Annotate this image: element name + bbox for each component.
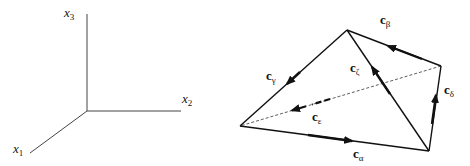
edge-label-delta: cδ	[444, 82, 454, 99]
edge-label-gamma: cγ	[266, 68, 276, 85]
diagram-canvas: x3 x2 x1 cβ cγ	[0, 0, 470, 166]
coordinate-axes: x3 x2 x1	[12, 5, 192, 158]
edge-label-epsilon: cε	[312, 109, 322, 126]
axis-x1	[30, 111, 87, 153]
edge-beta-arrow	[388, 46, 422, 59]
edge-gamma-arrow	[287, 72, 300, 84]
edge-zeta-arrow	[372, 67, 390, 94]
axis-label-x2: x2	[181, 91, 192, 108]
edge-label-zeta: cζ	[350, 60, 360, 77]
axis-label-x1: x1	[12, 141, 23, 158]
edge-epsilon-arrowhead	[292, 106, 306, 110]
edge-label-beta: cβ	[380, 12, 391, 29]
edge-label-alpha: cα	[353, 146, 364, 163]
tetrahedron: cβ cγ cζ cδ cε cα	[240, 12, 454, 163]
axis-label-x3: x3	[63, 5, 75, 22]
edge-alpha-arrow	[308, 135, 352, 141]
